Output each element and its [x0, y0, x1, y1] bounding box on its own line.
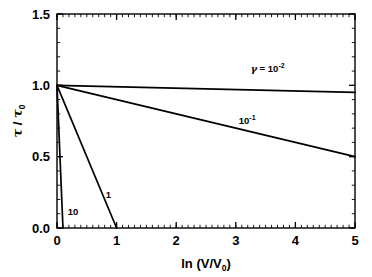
y-tick-label: 1.5 [32, 7, 50, 22]
line-chart: 012345 0.00.51.01.5 γ = 10-210-1110 ln (… [0, 0, 372, 277]
y-axis-title: τ / τ0 [10, 104, 27, 137]
curve-label: 10 [68, 206, 79, 217]
x-tick-label: 5 [351, 233, 358, 248]
y-tick-label: 0.5 [32, 149, 50, 164]
x-tick-label: 1 [113, 233, 120, 248]
x-tick-label: 3 [232, 233, 239, 248]
y-tick-label: 1.0 [32, 78, 50, 93]
x-tick-label: 4 [292, 233, 300, 248]
x-tick-label: 2 [173, 233, 180, 248]
y-tick-label: 0.0 [32, 221, 50, 236]
curve-label: 1 [106, 189, 112, 200]
figure-container: 012345 0.00.51.01.5 γ = 10-210-1110 ln (… [0, 0, 372, 277]
x-tick-label: 0 [53, 233, 60, 248]
